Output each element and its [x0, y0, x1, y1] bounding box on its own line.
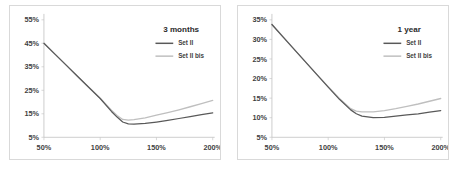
legend-label-set-ii: Set II	[406, 39, 421, 46]
x-tick-label: 50%	[265, 143, 280, 152]
y-tick-label: 20%	[252, 74, 267, 83]
y-tick-label: 45%	[24, 39, 39, 48]
series-line-set-ii-bis	[272, 25, 441, 112]
y-tick-label: 15%	[24, 109, 39, 118]
chart-title: 1 year	[397, 25, 421, 34]
y-tick-label: 5%	[256, 133, 267, 142]
chart-svg-1-year: 5%10%15%20%25%30%35%50%100%150%200%1 yea…	[238, 6, 448, 159]
legend-label-set-ii-bis: Set II bis	[406, 52, 432, 59]
x-tick-label: 50%	[37, 143, 52, 152]
x-tick-label: 150%	[375, 143, 394, 152]
y-tick-label: 25%	[252, 55, 267, 64]
chart-svg-3-months: 5%15%25%35%45%55%50%100%150%200%3 months…	[10, 6, 220, 159]
legend-label-set-ii-bis: Set II bis	[178, 52, 204, 59]
x-tick-label: 150%	[147, 143, 166, 152]
chart-panel-1-year: 5%10%15%20%25%30%35%50%100%150%200%1 yea…	[237, 5, 449, 160]
chart-title: 3 months	[163, 25, 199, 34]
y-tick-label: 35%	[24, 62, 39, 71]
legend-label-set-ii: Set II	[178, 39, 193, 46]
chart-panel-3-months: 5%15%25%35%45%55%50%100%150%200%3 months…	[9, 5, 221, 160]
figure-root: 5%15%25%35%45%55%50%100%150%200%3 months…	[0, 0, 458, 171]
y-tick-label: 35%	[252, 15, 267, 24]
y-tick-label: 10%	[252, 113, 267, 122]
y-tick-label: 55%	[24, 15, 39, 24]
x-tick-label: 200%	[203, 143, 220, 152]
y-tick-label: 30%	[252, 35, 267, 44]
x-tick-label: 200%	[431, 143, 448, 152]
x-tick-label: 100%	[319, 143, 338, 152]
y-tick-label: 25%	[24, 86, 39, 95]
y-tick-label: 5%	[28, 133, 39, 142]
series-line-set-ii	[272, 25, 441, 118]
x-tick-label: 100%	[91, 143, 110, 152]
y-tick-label: 15%	[252, 94, 267, 103]
